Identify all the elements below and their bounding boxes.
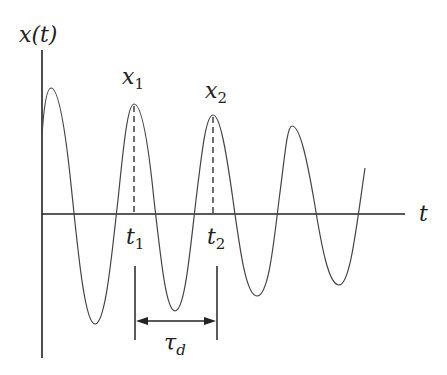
y-axis-label: x(t) [19, 24, 57, 46]
peak2-subscript: 2 [217, 89, 227, 107]
tau-subscript: d [176, 341, 186, 359]
t2-subscript: 2 [216, 235, 226, 253]
peak1-subscript: 1 [134, 75, 144, 93]
t2-label: t2 [207, 226, 225, 248]
peak1-symbol: x [122, 64, 134, 89]
tau-symbol: τ [164, 330, 176, 355]
period-label: τd [164, 332, 186, 354]
peak1-label: x1 [122, 66, 144, 88]
period-arrow-right-head [204, 317, 216, 325]
peak2-symbol: x [205, 78, 217, 103]
t1-symbol: t [126, 224, 135, 249]
t1-label: t1 [126, 226, 144, 248]
t1-subscript: 1 [135, 235, 145, 253]
peak2-label: x2 [205, 80, 227, 102]
period-arrow-left-head [136, 317, 148, 325]
t2-symbol: t [207, 224, 216, 249]
response-curve [42, 88, 365, 324]
damped-oscillation-diagram [0, 0, 447, 375]
x-axis-label: t [419, 203, 428, 225]
